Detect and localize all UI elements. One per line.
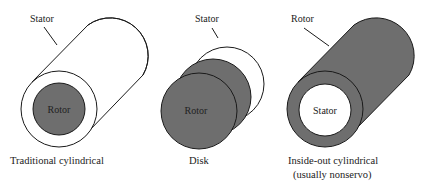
rotor-callout-label: Rotor [291,13,314,24]
traditional-cylindrical-diagram: Rotor Stator Traditional cylindrical [10,13,148,166]
stator-callout-label: Stator [195,13,220,24]
stator-leader-line [44,27,57,45]
rotor-label: Rotor [185,105,208,116]
disk-diagram: Rotor Stator Disk [161,13,264,166]
caption-inside-out-line2: (usually nonservo) [293,169,372,181]
stator-callout-label: Stator [30,13,55,24]
rotor-label: Rotor [48,104,71,115]
stator-leader-line [212,28,218,38]
caption-inside-out-line1: Inside-out cylindrical [288,155,378,166]
caption-traditional: Traditional cylindrical [10,155,104,166]
motor-configurations-diagram: Rotor Stator Traditional cylindrical Rot… [0,0,430,185]
inside-out-cylindrical-diagram: Stator Rotor Inside-out cylindrical (usu… [287,13,414,181]
caption-disk: Disk [189,155,210,166]
rotor-leader-line [304,28,329,46]
stator-label: Stator [313,105,338,116]
